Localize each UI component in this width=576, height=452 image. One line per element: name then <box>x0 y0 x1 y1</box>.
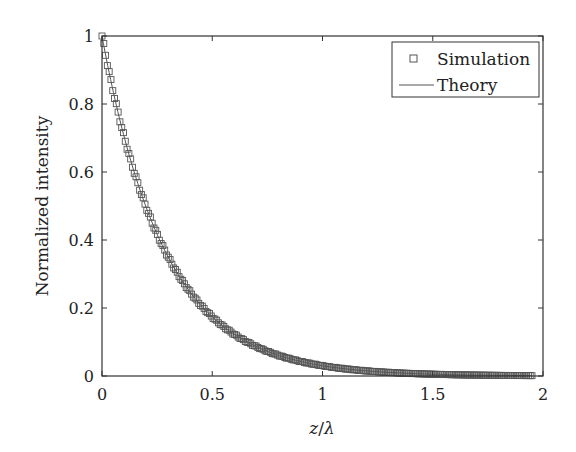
legend-label-simulation: Simulation <box>437 49 530 69</box>
y-axis-label: Normalized intensity <box>32 115 52 296</box>
x-tick-label: 0 <box>97 385 107 404</box>
legend: Simulation Theory <box>392 42 539 97</box>
y-tick-label: 0.6 <box>69 163 94 182</box>
y-tick-label: 0.2 <box>69 299 94 318</box>
y-tick-label: 0 <box>84 367 94 386</box>
y-tick-label: 0.8 <box>69 95 94 114</box>
x-tick-label: 0.5 <box>200 385 225 404</box>
x-tick-label: 2 <box>538 385 548 404</box>
y-tick-label: 1 <box>84 27 94 46</box>
y-tick-label: 0.4 <box>69 231 94 250</box>
x-tick-label: 1.5 <box>420 385 445 404</box>
chart: 00.511.5200.20.40.60.81 Normalized inten… <box>0 0 576 452</box>
x-axis-label: z/λ <box>308 418 334 438</box>
x-tick-label: 1 <box>317 385 327 404</box>
legend-label-theory: Theory <box>437 75 498 95</box>
